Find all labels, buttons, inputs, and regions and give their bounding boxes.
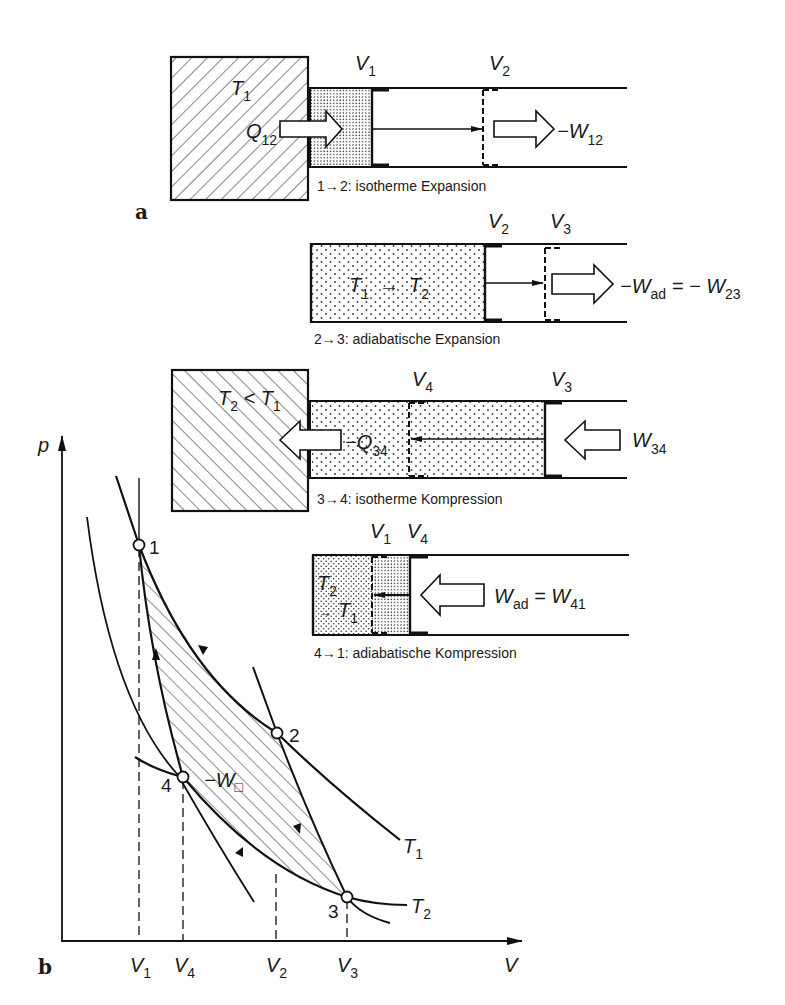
- volume-label-v3: V3: [551, 368, 572, 395]
- step-2-3-adiabatic-expansion: T1→T2 V2 V3 −Wad = − W23 2→ 3: adiabatis…: [310, 210, 741, 347]
- work-input-arrow: [421, 575, 484, 615]
- panel-label-b: b: [38, 955, 52, 979]
- state-label-3: 3: [328, 901, 339, 922]
- work-output-arrow: [494, 111, 554, 147]
- direction-arrow-3-4: [235, 847, 243, 857]
- step-caption: 4→ 1: adiabatische Kompression: [314, 645, 517, 661]
- work-label: −Wad = − W23: [620, 275, 741, 302]
- x-tick-v1: V1: [130, 954, 151, 981]
- volume-label-v1: V1: [370, 520, 391, 547]
- state-point-3: [342, 892, 353, 903]
- volume-label-v2: V2: [489, 52, 510, 79]
- volume-label-v4: V4: [407, 520, 428, 547]
- panel-label-a: a: [135, 200, 148, 224]
- work-label: W34: [632, 429, 667, 457]
- volume-label-v3: V3: [550, 210, 571, 237]
- state-label-1: 1: [149, 537, 160, 558]
- isotherm-label-t1: T1: [403, 835, 423, 862]
- step-3-4-isothermal-compression: T2 < T1 −Q34 V4 V3 W34 3→ 4: isotherme K…: [172, 368, 667, 511]
- work-output-arrow: [552, 265, 613, 303]
- gas-region-outer: [314, 556, 372, 634]
- isotherm-label-t2: T2: [411, 895, 431, 922]
- step-1-2-isothermal-expansion: T1 Q12 V1 V2 −W12 1→ 2: isotherme Expans…: [171, 52, 627, 200]
- state-label-4: 4: [161, 775, 172, 796]
- step-caption: 1→ 2: isotherme Expansion: [317, 178, 486, 194]
- state-label-2: 2: [289, 725, 300, 746]
- x-tick-v4: V4: [174, 954, 195, 981]
- step-caption: 2→ 3: adiabatische Expansion: [314, 331, 500, 347]
- x-tick-v2: V2: [266, 954, 287, 981]
- work-label: −W12: [557, 120, 603, 148]
- state-point-2: [272, 728, 283, 739]
- volume-label-v4: V4: [412, 368, 433, 395]
- work-input-arrow: [565, 421, 620, 459]
- volume-label-v1: V1: [355, 52, 376, 79]
- pv-diagram: 1 2 3 4 −W□ T1 T2 p V V1 V4 V2 V3: [37, 434, 522, 981]
- carnot-cycle-figure: T1 Q12 V1 V2 −W12 1→ 2: isotherme Expans…: [0, 0, 785, 1005]
- state-point-4: [178, 772, 189, 783]
- state-point-1: [134, 540, 145, 551]
- step-4-1-adiabatic-compression: T2 →T1 V1 V4 Wad = W41 4→ 1: adiabatisch…: [312, 520, 629, 661]
- direction-arrow-1-2: [198, 645, 208, 655]
- volume-label-v2: V2: [488, 210, 509, 237]
- work-label: Wad = W41: [494, 585, 586, 612]
- x-tick-v3: V3: [337, 954, 358, 981]
- p-axis-label: p: [37, 434, 49, 456]
- v-axis-label: V: [504, 954, 519, 976]
- step-caption: 3→ 4: isotherme Kompression: [317, 491, 503, 507]
